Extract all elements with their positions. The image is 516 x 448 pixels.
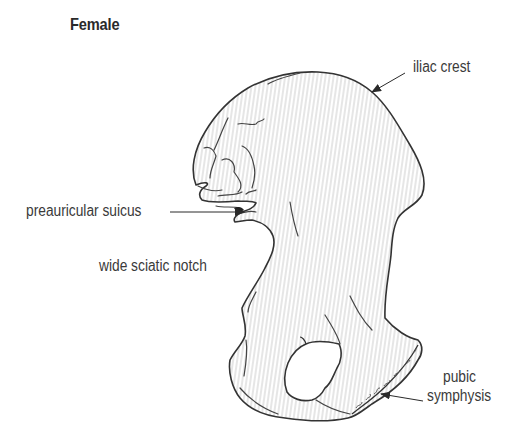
label-iliac-crest: iliac crest (413, 58, 470, 76)
arrow-pubic-symphysis (381, 394, 423, 401)
arrow-iliac-crest (372, 73, 405, 92)
diagram-canvas: Female iliac crest preauricular suicus w… (0, 0, 516, 448)
label-symphysis: symphysis (427, 387, 491, 405)
figure-title: Female (70, 15, 119, 35)
label-pubic: pubic (443, 368, 476, 386)
label-preauricular-sulcus: preauricular suicus (26, 202, 141, 220)
label-sciatic-notch: wide sciatic notch (99, 257, 207, 275)
